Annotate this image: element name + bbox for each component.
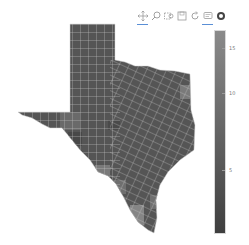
colorbar-tick-15: 15 — [229, 45, 235, 51]
counties[interactable] — [0, 0, 210, 245]
box-zoom-tool[interactable] — [163, 9, 174, 23]
pan-icon — [138, 11, 148, 21]
save-icon — [177, 11, 187, 21]
plot-area[interactable]: 15 10 5 — [0, 0, 249, 245]
bokeh-logo[interactable] — [215, 9, 226, 23]
colorbar-tickmark — [222, 93, 225, 94]
reset-tool[interactable] — [189, 9, 200, 23]
texas-county-map[interactable] — [0, 0, 210, 245]
bokeh-logo-icon — [216, 11, 226, 21]
wheel-zoom-tool[interactable] — [150, 9, 161, 23]
wheel-zoom-icon — [151, 11, 161, 21]
colorbar — [214, 30, 226, 234]
colorbar-tickmark — [222, 170, 225, 171]
hover-tool[interactable] — [202, 9, 213, 23]
colorbar-tick-5: 5 — [229, 167, 232, 173]
pan-tool[interactable] — [137, 9, 148, 23]
save-tool[interactable] — [176, 9, 187, 23]
colorbar-tickmark — [222, 48, 225, 49]
box-zoom-icon — [164, 11, 174, 21]
colorbar-tick-10: 10 — [229, 90, 235, 96]
toolbar — [137, 8, 226, 24]
reset-icon — [190, 11, 200, 21]
hover-icon — [203, 11, 213, 21]
